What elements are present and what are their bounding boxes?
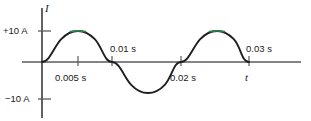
- y-tick-label-minus10: −10 A: [5, 94, 30, 104]
- x-axis-label: t: [245, 72, 248, 83]
- peak-highlight-second: [210, 31, 225, 32]
- x-tick-label-0005: 0.005 s: [55, 73, 86, 83]
- x-tick-label-003: 0.03 s: [246, 44, 272, 54]
- waveform-figure: I t +10 A −10 A 0.005 s 0.01 s 0.02 s 0.…: [0, 0, 311, 121]
- y-axis-label: I: [45, 3, 49, 14]
- y-tick-label-plus10: +10 A: [3, 26, 28, 36]
- x-tick-label-001: 0.01 s: [110, 44, 136, 54]
- waveform-plot: [0, 0, 311, 121]
- peak-highlight-first: [71, 31, 86, 32]
- x-tick-label-002: 0.02 s: [170, 73, 196, 83]
